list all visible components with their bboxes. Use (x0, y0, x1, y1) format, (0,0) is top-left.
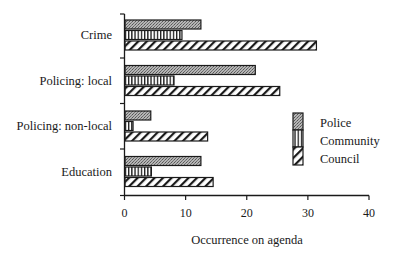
category-label: Crime (81, 28, 113, 42)
x-tick-label: 20 (241, 206, 253, 220)
x-tick-label: 30 (302, 206, 314, 220)
bar-council (125, 178, 213, 187)
category-label: Education (61, 165, 112, 179)
bar-police (125, 66, 255, 75)
legend-label-community: Community (320, 134, 380, 148)
bar-groups (125, 20, 316, 187)
bar-police (125, 20, 201, 29)
bar-community (125, 76, 174, 85)
category-labels: CrimePolicing: localPolicing: non-localE… (17, 28, 113, 179)
x-tick-label: 10 (180, 206, 192, 220)
bar-police (125, 157, 201, 166)
category-label: Policing: local (39, 74, 112, 88)
bar-community (125, 31, 182, 40)
bar-council (125, 41, 316, 50)
bar-group (125, 20, 316, 50)
legend: Police Community Council (293, 113, 380, 166)
bar-council (125, 87, 280, 96)
legend-swatch-council (293, 147, 303, 165)
bar-police (125, 111, 151, 120)
legend-label-police: Police (320, 116, 352, 130)
bar-group (125, 66, 280, 96)
x-axis-label: Occurrence on agenda (191, 233, 303, 247)
x-axis-ticks: 010203040 (122, 196, 376, 221)
legend-swatch-community (293, 130, 303, 147)
legend-swatch-police (293, 113, 303, 130)
legend-label-council: Council (320, 152, 360, 166)
x-tick-label: 40 (363, 206, 375, 220)
bar-community (125, 122, 133, 131)
x-tick-label: 0 (122, 206, 128, 220)
bar-community (125, 167, 151, 176)
bar-council (125, 132, 208, 141)
bar-group (125, 157, 213, 187)
bar-group (125, 111, 208, 141)
bar-chart: 010203040 CrimePolicing: localPolicing: … (0, 0, 395, 256)
category-label: Policing: non-local (17, 119, 113, 133)
